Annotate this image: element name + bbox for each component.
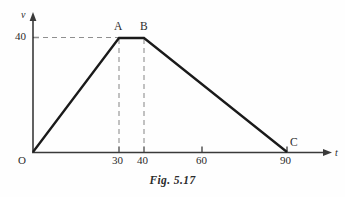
- y-axis-label: v: [21, 10, 25, 20]
- point-label-a: A: [114, 21, 122, 33]
- velocity-time-graph: [0, 0, 345, 197]
- x-tick-label-40: 40: [137, 155, 148, 166]
- x-tick-label-30: 30: [112, 155, 123, 166]
- x-tick-label-90: 90: [280, 155, 291, 166]
- y-tick-label-40: 40: [15, 31, 26, 42]
- origin-label: O: [18, 155, 26, 166]
- velocity-curve: [33, 38, 287, 152]
- x-axis-label: t: [335, 148, 338, 158]
- guide-lines: [34, 38, 144, 152]
- point-label-c: C: [290, 137, 298, 149]
- x-tick-label-60: 60: [196, 155, 207, 166]
- y-axis: [30, 12, 37, 153]
- point-label-b: B: [140, 21, 148, 33]
- figure-caption: Fig. 5.17: [0, 174, 345, 186]
- figure-container: v t O 40 30 40 60 90 A B C Fig. 5.17: [0, 0, 345, 197]
